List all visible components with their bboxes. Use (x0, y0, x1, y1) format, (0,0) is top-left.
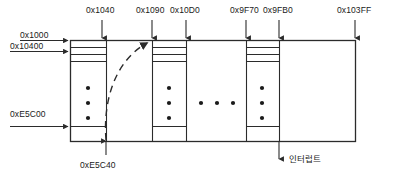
top-label-0x103FF: 0x103FF (337, 5, 371, 15)
vector-block-1 (71, 48, 107, 127)
diagram-canvas (0, 0, 393, 177)
left-label-0xE5C00: 0xE5C00 (10, 109, 46, 119)
block-1-dot-3 (86, 116, 90, 120)
block-3-dot-1 (260, 86, 264, 90)
bottom-label-0xE5C40: 0xE5C40 (80, 160, 116, 170)
block-2-dot-1 (167, 86, 171, 90)
ellipsis-dot-1 (199, 101, 203, 105)
block-1-dot-2 (86, 101, 90, 105)
interrupt-label: 인터럽트 (289, 152, 321, 164)
top-arrows (102, 20, 355, 38)
top-label-0x10D0: 0x10D0 (170, 5, 200, 15)
top-label-0x9F70: 0x9F70 (230, 5, 259, 15)
top-label-0x1040: 0x1040 (86, 5, 115, 15)
vector-block-2 (153, 48, 187, 127)
block-1-dot-1 (86, 86, 90, 90)
dashed-mapping-curve (105, 43, 147, 140)
block-2-dot-2 (167, 101, 171, 105)
ellipsis-dot-3 (231, 101, 235, 105)
top-label-0x9FB0: 0x9FB0 (263, 5, 293, 15)
left-label-0x1000: 0x1000 (20, 30, 49, 40)
memory-map-diagram: 0x1040 0x1090 0x10D0 0x9F70 0x9FB0 0x103… (0, 0, 393, 177)
block-3-dot-3 (260, 116, 264, 120)
ellipsis-dot-2 (215, 101, 219, 105)
top-label-0x1090: 0x1090 (136, 5, 165, 15)
block-2-dot-3 (167, 116, 171, 120)
left-label-0x10400: 0x10400 (10, 41, 43, 51)
outer-memory-rect (71, 41, 356, 142)
vector-block-3 (247, 48, 280, 127)
ellipsis-dots (199, 101, 235, 105)
block-3-dot-2 (260, 101, 264, 105)
